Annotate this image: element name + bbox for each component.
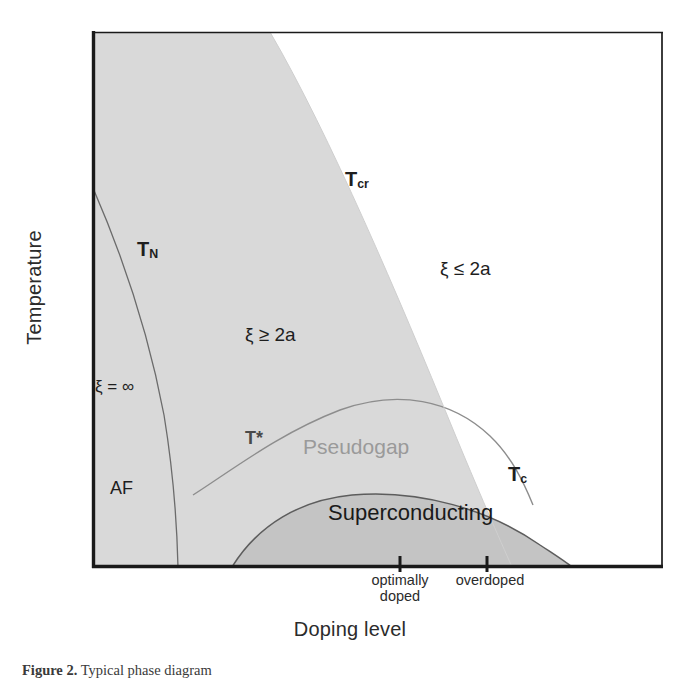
label-tc-subscript: c xyxy=(520,472,527,486)
label-tcr-subscript: cr xyxy=(357,177,369,191)
tick-label-overdoped: overdoped xyxy=(436,572,544,588)
label-tcr-main: T xyxy=(345,168,357,190)
label-antiferromagnetic: AF xyxy=(110,478,133,499)
label-t-star: T* xyxy=(245,428,263,449)
figure-caption: Figure 2. Typical phase diagram xyxy=(22,662,682,679)
label-tcr: Tcr xyxy=(345,168,369,191)
y-axis-title: Temperature xyxy=(23,188,46,388)
label-tn-main: T xyxy=(137,238,149,260)
label-tn-subscript: N xyxy=(149,247,158,261)
label-xi-less-equal-2a: ξ ≤ 2a xyxy=(440,258,491,280)
label-tc-main: T xyxy=(508,463,520,485)
region-xi-ge-2a-shading xyxy=(93,32,512,567)
figure-caption-text: Typical phase diagram xyxy=(81,662,212,678)
label-xi-greater-equal-2a: ξ ≥ 2a xyxy=(245,324,296,346)
x-axis-title: Doping level xyxy=(0,618,700,641)
label-tn: TN xyxy=(137,238,158,261)
label-tc: Tc xyxy=(508,463,527,486)
figure-caption-label: Figure 2. xyxy=(22,662,77,678)
label-xi-infinite: ξ = ∞ xyxy=(95,377,134,397)
label-superconducting: Superconducting xyxy=(328,500,493,526)
phase-diagram-figure: Temperature Doping level optimally doped… xyxy=(0,0,700,681)
label-pseudogap: Pseudogap xyxy=(303,435,409,459)
